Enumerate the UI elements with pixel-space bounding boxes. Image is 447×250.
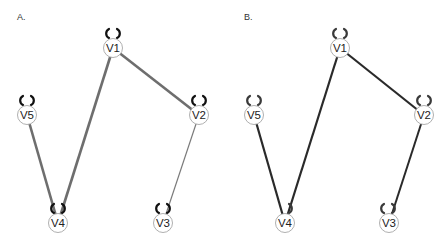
node-v3[interactable]: V3 [380,214,399,233]
edge-v1-v4 [285,48,340,223]
edge-v5-v4 [254,115,285,223]
self-loop-icon [417,96,420,105]
edge-v1-v2 [113,48,199,115]
node-v1[interactable]: V1 [104,39,123,58]
self-loop-icon [428,96,431,105]
node-label: V2 [192,109,206,121]
self-loop-icon [156,204,159,213]
node-v4[interactable]: V4 [49,214,68,233]
panel-b-label: B. [244,12,253,22]
self-loop-icon [31,96,34,105]
node-label: V4 [51,217,66,229]
node-v3[interactable]: V3 [154,214,173,233]
self-loop-icon [381,204,384,213]
node-label: V3 [156,217,170,229]
node-label: V5 [20,109,34,121]
node-v2[interactable]: V2 [415,106,434,125]
panel-a: A. V1 V2 [17,12,209,233]
node-v2[interactable]: V2 [190,106,209,125]
node-label: V1 [106,42,120,54]
self-loop-icon [333,29,336,38]
panel-a-label: A. [17,12,26,22]
edge-v5-v4 [27,115,58,223]
node-v5[interactable]: V5 [18,106,37,125]
edge-v1-v2 [340,48,424,115]
self-loop-icon [192,96,195,105]
node-v1[interactable]: V1 [331,39,350,58]
network-diagram: A. V1 V2 [0,0,447,250]
self-loop-icon [203,96,206,105]
self-loop-icon [106,29,109,38]
panel-b: B. V1 V2 [244,12,434,233]
node-label: V3 [382,217,396,229]
edge-v1-v4 [58,48,113,223]
self-loop-icon [258,96,261,105]
node-label: V4 [278,217,293,229]
self-loop-icon [117,29,120,38]
panel-b-edges [254,48,424,223]
panel-b-nodes: V1 V2 V3 V4 V5 [245,39,434,233]
node-v4[interactable]: V4 [276,214,295,233]
self-loop-icon [344,29,347,38]
node-v5[interactable]: V5 [245,106,264,125]
self-loop-icon [247,96,250,105]
panel-a-nodes: V1 V2 V3 V4 V5 [18,39,209,233]
node-label: V2 [417,109,431,121]
self-loop-icon [20,96,23,105]
node-label: V1 [333,42,347,54]
panel-a-edges [27,48,199,223]
node-label: V5 [247,109,261,121]
